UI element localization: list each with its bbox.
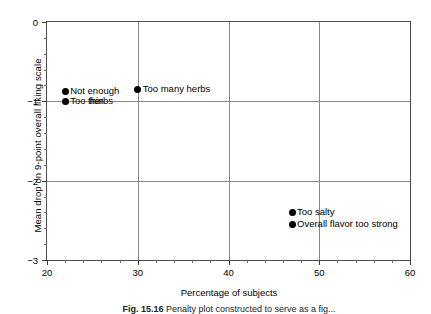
y-axis-major-tick xyxy=(42,22,47,23)
x-axis-minor-tick xyxy=(283,260,284,263)
y-axis-minor-tick xyxy=(44,70,47,71)
x-axis-minor-tick xyxy=(174,260,175,263)
x-axis-tick-label: 20 xyxy=(42,267,53,278)
x-axis-minor-tick xyxy=(247,260,248,263)
x-axis-minor-tick xyxy=(337,260,338,263)
x-axis-minor-tick xyxy=(356,260,357,263)
x-axis-major-tick xyxy=(410,260,411,265)
x-axis-minor-tick xyxy=(120,260,121,263)
y-axis-tick-label: 0 xyxy=(33,17,38,28)
y-axis-minor-tick xyxy=(44,197,47,198)
x-axis-title: Percentage of subjects xyxy=(46,287,412,298)
y-axis-tick-label: −1 xyxy=(27,96,38,107)
x-axis-minor-tick xyxy=(265,260,266,263)
figure-caption-text: Penalty plot constructed to serve as a f… xyxy=(166,304,336,314)
x-axis-tick-label: 60 xyxy=(405,267,416,278)
data-point[interactable] xyxy=(289,221,296,228)
x-axis-major-tick xyxy=(138,260,139,265)
data-point[interactable] xyxy=(289,209,296,216)
data-point-label: Too many herbs xyxy=(143,84,211,94)
x-axis-tick-label: 30 xyxy=(132,267,143,278)
x-axis-minor-tick xyxy=(65,260,66,263)
gridline-vertical xyxy=(229,22,230,260)
y-axis-minor-tick xyxy=(44,244,47,245)
x-axis-minor-tick xyxy=(301,260,302,263)
y-axis-minor-tick xyxy=(44,117,47,118)
y-axis-tick-label: −3 xyxy=(27,255,38,266)
y-axis-major-tick xyxy=(42,260,47,261)
x-axis-minor-tick xyxy=(210,260,211,263)
x-axis-minor-tick xyxy=(156,260,157,263)
figure-caption: Fig. 15.16 Penalty plot constructed to s… xyxy=(46,304,412,314)
data-point[interactable] xyxy=(62,98,69,105)
y-axis-major-tick xyxy=(42,181,47,182)
x-axis-minor-tick xyxy=(392,260,393,263)
plot-area: 2030405060−3−2−10Overall flavor too stro… xyxy=(46,21,411,261)
x-axis-minor-tick xyxy=(101,260,102,263)
data-point[interactable] xyxy=(62,88,69,95)
y-axis-minor-tick xyxy=(44,133,47,134)
y-axis-minor-tick xyxy=(44,85,47,86)
gridline-horizontal xyxy=(47,181,410,182)
y-axis-major-tick xyxy=(42,101,47,102)
y-axis-tick-label: −2 xyxy=(27,175,38,186)
gridline-vertical xyxy=(138,22,139,260)
x-axis-major-tick xyxy=(229,260,230,265)
x-axis-major-tick xyxy=(47,260,48,265)
x-axis-major-tick xyxy=(319,260,320,265)
y-axis-minor-tick xyxy=(44,228,47,229)
y-axis-minor-tick xyxy=(44,38,47,39)
x-axis-tick-label: 50 xyxy=(314,267,325,278)
data-point-label: Not enoughherbs xyxy=(70,86,132,106)
data-point-label: Overall flavor too strong xyxy=(297,219,398,229)
y-axis-title: Mean drop on 9-point overall liking scal… xyxy=(32,26,43,266)
y-axis-minor-tick xyxy=(44,212,47,213)
data-point-label: Too salty xyxy=(297,207,335,217)
x-axis-minor-tick xyxy=(192,260,193,263)
y-axis-minor-tick xyxy=(44,149,47,150)
y-axis-minor-tick xyxy=(44,54,47,55)
data-point-label-line2: herbs xyxy=(70,96,132,106)
figure-caption-number: Fig. 15.16 xyxy=(122,304,163,314)
x-axis-minor-tick xyxy=(83,260,84,263)
x-axis-tick-label: 40 xyxy=(223,267,234,278)
y-axis-minor-tick xyxy=(44,165,47,166)
x-axis-minor-tick xyxy=(374,260,375,263)
data-point[interactable] xyxy=(134,86,141,93)
